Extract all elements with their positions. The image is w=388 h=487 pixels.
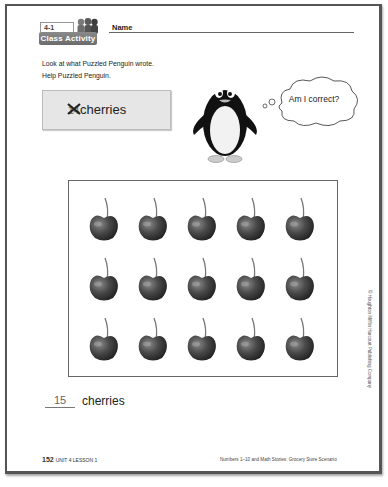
cherry-icon — [128, 249, 177, 309]
cherry-icon — [275, 249, 324, 309]
cherry-picture-box — [68, 180, 338, 377]
name-label: Name — [112, 23, 132, 32]
class-activity-label: Class Activity — [39, 32, 97, 45]
chapter-title: Numbers 1–10 and Math Stories: Grocery S… — [220, 457, 337, 462]
cherry-icon — [128, 309, 177, 369]
cherry-icon — [79, 309, 128, 369]
cherry-icon — [275, 309, 324, 369]
lesson-number: 4-1 — [40, 22, 74, 32]
cherry-grid — [79, 189, 324, 369]
cherry-icon — [226, 249, 275, 309]
instruction-line-1: Look at what Puzzled Penguin wrote. — [42, 60, 154, 67]
cherry-icon — [79, 249, 128, 309]
answer-word: cherries — [82, 394, 125, 408]
footer-left: 152UNIT 4 LESSON 1 — [42, 456, 97, 463]
name-write-line[interactable] — [109, 32, 354, 33]
puzzled-penguin-icon — [190, 75, 260, 165]
cherry-icon — [226, 189, 275, 249]
penguin-answer-word: cherries — [80, 102, 126, 117]
cherry-icon — [226, 309, 275, 369]
cherry-icon — [275, 189, 324, 249]
class-activity-badge: 4-1 Class Activity — [37, 18, 100, 47]
cherry-icon — [79, 189, 128, 249]
unit-lesson: UNIT 4 LESSON 1 — [56, 457, 98, 463]
cherry-icon — [128, 189, 177, 249]
crossed-out-number: 14 — [68, 103, 79, 117]
answer-blank[interactable]: 15 — [45, 394, 75, 408]
copyright-notice: © Houghton Mifflin Harcourt Publishing C… — [367, 290, 372, 388]
thought-bubble-text: Am I correct? — [276, 94, 352, 104]
cross-out-icon — [67, 103, 81, 115]
page-number: 152 — [42, 456, 54, 463]
instruction-line-2: Help Puzzled Penguin. — [42, 72, 111, 79]
cherry-icon — [177, 189, 226, 249]
cherry-icon — [177, 249, 226, 309]
cherry-icon — [177, 309, 226, 369]
penguin-answer-card: 14 cherries — [42, 90, 171, 130]
